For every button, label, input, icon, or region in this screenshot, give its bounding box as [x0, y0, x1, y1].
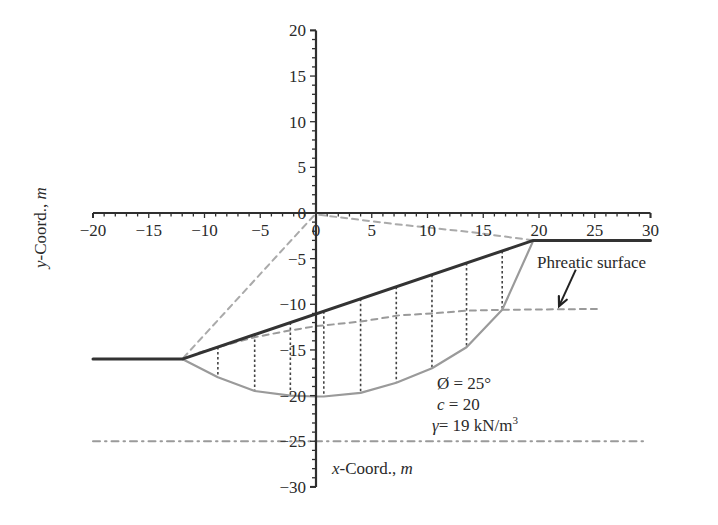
- y-tick-label: −10: [279, 295, 306, 314]
- y-tick-label: 10: [289, 113, 306, 132]
- y-tick-label: −5: [288, 250, 306, 269]
- x-tick-label: 10: [419, 221, 436, 240]
- x-tick-label: −15: [135, 221, 162, 240]
- phreatic-surface-line: [199, 309, 600, 353]
- phreatic-surface-label: Phreatic surface: [537, 253, 646, 272]
- x-tick-label: 25: [586, 221, 603, 240]
- x-axis-title: x-Coord., m: [331, 459, 413, 478]
- y-tick-label: 20: [289, 21, 306, 40]
- y-tick-label: −25: [279, 432, 306, 451]
- x-tick-label: −5: [251, 221, 269, 240]
- y-axis-title: y-Coord., m: [31, 187, 50, 270]
- phreatic-arrow-icon: [559, 270, 576, 307]
- x-tick-label: −10: [191, 221, 218, 240]
- y-tick-label: −15: [279, 341, 306, 360]
- x-tick-label: 30: [642, 221, 659, 240]
- y-tick-label: −20: [279, 387, 306, 406]
- x-tick-label: −20: [80, 221, 107, 240]
- unit-weight-label: γ= 19 kN/m3: [432, 414, 519, 435]
- y-tick-label: −30: [279, 478, 306, 497]
- chart-series: [93, 215, 651, 441]
- friction-angle-label: Ø = 25°: [437, 374, 491, 393]
- cohesion-label: c = 20: [437, 395, 480, 414]
- y-tick-label: 5: [298, 158, 307, 177]
- y-tick-label: 0: [298, 204, 307, 223]
- x-tick-label: 15: [475, 221, 492, 240]
- x-tick-label: 5: [368, 221, 377, 240]
- x-tick-label: 20: [531, 221, 548, 240]
- y-tick-label: 15: [289, 67, 306, 86]
- slope-stability-chart: −20−15−10−505101520253020151050−5−10−15−…: [0, 0, 718, 525]
- x-tick-label: 0: [312, 221, 321, 240]
